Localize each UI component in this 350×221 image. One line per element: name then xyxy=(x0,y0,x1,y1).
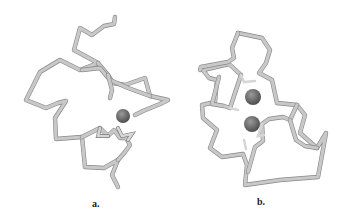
panel-a-structure xyxy=(26,17,168,187)
metal-ion-1-icon xyxy=(245,89,261,105)
panel-b-structure xyxy=(200,33,326,185)
panel-b-label: b. xyxy=(257,196,265,207)
metal-ion-icon xyxy=(116,109,130,123)
structure-figure xyxy=(0,0,350,221)
metal-ion-2-icon xyxy=(244,116,260,132)
panel-a-label: a. xyxy=(92,198,100,209)
